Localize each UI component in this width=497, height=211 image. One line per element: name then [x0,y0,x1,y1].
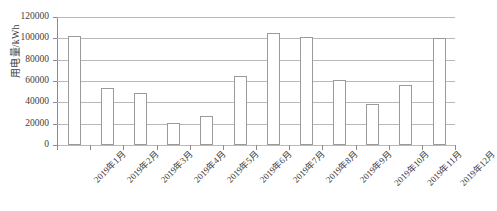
bar [234,76,247,145]
y-tick-label: 20000 [0,119,49,129]
x-tick-label: 2019年12月 [458,149,497,188]
x-tick-label: 2019年7月 [291,149,327,185]
y-tick-label: 100000 [0,33,49,43]
x-tick-label: 2019年4月 [192,149,228,185]
bars-group [57,17,455,145]
y-tick-label: 60000 [0,76,49,86]
bar [433,38,446,145]
y-tick-label: 80000 [0,55,49,65]
x-tick-label: 2019年9月 [357,149,393,185]
y-tick-label: 120000 [0,12,49,22]
x-tick-label: 2019年2月 [125,149,161,185]
bar [399,85,412,145]
bar [366,104,379,145]
x-tick-label: 2019年6月 [258,149,294,185]
bar [68,36,81,145]
x-tick-label: 2019年10月 [392,149,431,188]
x-tick-label: 2019年5月 [225,149,261,185]
bar [101,88,114,145]
y-tick-label: 40000 [0,97,49,107]
x-tick-label: 2019年3月 [158,149,194,185]
bar [267,33,280,145]
bar [333,80,346,145]
bar [300,37,313,145]
bar [167,123,180,145]
bar [134,93,147,145]
x-axis-label-group: 2019年1月2019年2月2019年3月2019年4月2019年5月2019年… [0,149,466,211]
x-tick-label: 2019年1月 [92,149,128,185]
x-tick-label: 2019年8月 [324,149,360,185]
bar [200,116,213,145]
plot-area: 120000100000800006000040000200000 [57,17,455,145]
